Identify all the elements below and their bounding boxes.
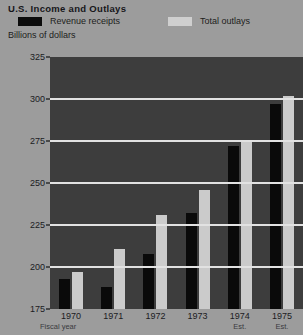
y-tick-label-325: 325 — [30, 52, 45, 62]
x-tick-note-1974: Est. — [233, 322, 246, 331]
x-axis-title: Fiscal year — [40, 322, 76, 331]
y-tick-mark-175 — [46, 308, 50, 310]
y-tick-mark-250 — [46, 182, 50, 184]
bar-1971-revenue — [101, 287, 112, 309]
y-tick-mark-300 — [46, 98, 50, 100]
x-tick-note-1975: Est. — [275, 322, 288, 331]
x-tick-label-1971: 1971 — [103, 311, 123, 321]
x-tick-label-1975: 1975 — [272, 311, 292, 321]
gridline-275 — [50, 140, 303, 142]
y-tick-mark-225 — [46, 224, 50, 226]
bar-1970-revenue — [59, 279, 70, 309]
chart-plot-area: 175200225250275300325 — [50, 57, 303, 309]
y-tick-mark-275 — [46, 140, 50, 142]
x-tick-label-1970: 1970 — [61, 311, 81, 321]
bar-1973-revenue — [186, 213, 197, 309]
legend-label-outlays: Total outlays — [200, 16, 250, 26]
page-title: U.S. Income and Outlays — [8, 3, 126, 14]
y-tick-label-275: 275 — [30, 136, 45, 146]
y-tick-label-225: 225 — [30, 220, 45, 230]
x-tick-label-1973: 1973 — [188, 311, 208, 321]
y-tick-label-300: 300 — [30, 94, 45, 104]
bar-1972-revenue — [143, 254, 154, 309]
bar-1974-revenue — [228, 146, 239, 309]
legend-item-total-outlays: Total outlays — [168, 16, 250, 26]
bar-1975-outlays — [283, 96, 294, 309]
bar-1970-outlays — [72, 272, 83, 309]
y-tick-label-175: 175 — [30, 304, 45, 314]
chart-legend: Revenue receipts Total outlays — [18, 16, 303, 28]
bar-1972-outlays — [156, 215, 167, 309]
gridline-300 — [50, 98, 303, 100]
y-tick-label-200: 200 — [30, 262, 45, 272]
bar-1973-outlays — [199, 190, 210, 309]
legend-swatch-revenue-icon — [18, 17, 42, 26]
legend-swatch-outlays-icon — [168, 17, 192, 26]
y-axis-units-label: Billions of dollars — [8, 30, 76, 40]
x-tick-label-1974: 1974 — [230, 311, 250, 321]
x-axis-labels: 19701971197219731974Est.1975Est. — [50, 311, 303, 335]
bar-1975-revenue — [270, 104, 281, 309]
plot-background — [50, 57, 303, 309]
bar-1971-outlays — [114, 249, 125, 309]
gridline-250 — [50, 182, 303, 184]
legend-item-revenue-receipts: Revenue receipts — [18, 16, 120, 26]
x-tick-label-1972: 1972 — [145, 311, 165, 321]
gridline-225 — [50, 224, 303, 226]
y-tick-mark-200 — [46, 266, 50, 268]
y-tick-mark-325 — [46, 56, 50, 58]
legend-label-revenue: Revenue receipts — [50, 16, 120, 26]
gridline-200 — [50, 266, 303, 268]
y-tick-label-250: 250 — [30, 178, 45, 188]
